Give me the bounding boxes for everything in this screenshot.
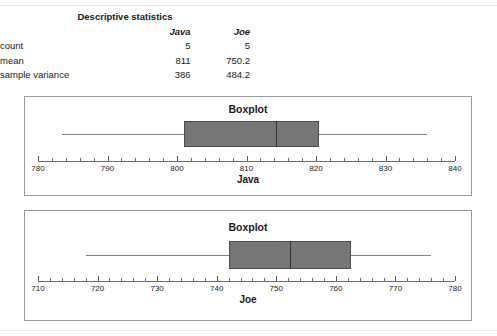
axis-tick-minor <box>94 158 95 161</box>
axis-tick-minor <box>133 278 134 281</box>
x-axis <box>38 281 455 282</box>
axis-tick-label: 820 <box>298 164 334 174</box>
axis-tick-label: 800 <box>159 164 195 174</box>
table-title-row: Descriptive statistics <box>0 10 250 25</box>
table-row: mean 811 750.2 <box>0 54 250 69</box>
axis-tick-minor <box>109 278 110 281</box>
row-label-sample-variance: sample variance <box>0 68 136 83</box>
x-axis <box>38 161 455 162</box>
axis-tick-minor <box>74 278 75 281</box>
bottom-divider <box>0 330 497 331</box>
top-divider <box>0 5 497 6</box>
axis-tick-major <box>247 156 248 161</box>
axis-tick-minor <box>241 278 242 281</box>
axis-tick-minor <box>80 158 81 161</box>
axis-tick-minor <box>300 278 301 281</box>
axis-title-joe: Joe <box>25 294 471 305</box>
axis-tick-minor <box>441 158 442 161</box>
cell-mean-joe: 750.2 <box>191 54 250 69</box>
axis-tick-minor <box>121 158 122 161</box>
boxplot-panel-java: Boxplot 780790800810820830840 Java <box>24 96 472 196</box>
axis-tick-label: 730 <box>139 284 175 294</box>
axis-tick-minor <box>360 278 361 281</box>
axis-tick-major <box>336 276 337 281</box>
axis-tick-minor <box>135 158 136 161</box>
cell-sample-variance-java: 386 <box>136 68 191 83</box>
axis-tick-label: 780 <box>437 284 473 294</box>
axis-tick-minor <box>86 278 87 281</box>
axis-tick-minor <box>288 158 289 161</box>
table-header-row: Java Joe <box>0 25 250 40</box>
axis-tick-minor <box>191 158 192 161</box>
cell-sample-variance-joe: 484.2 <box>191 68 250 83</box>
axis-tick-minor <box>264 278 265 281</box>
axis-tick-minor <box>372 278 373 281</box>
axis-tick-minor <box>358 158 359 161</box>
box-iqr <box>184 121 320 147</box>
cell-count-java: 5 <box>136 39 191 54</box>
axis-tick-minor <box>407 278 408 281</box>
axis-tick-minor <box>219 158 220 161</box>
axis-tick-label: 720 <box>80 284 116 294</box>
axis-tick-minor <box>52 158 53 161</box>
axis-tick-minor <box>274 158 275 161</box>
axis-tick-major <box>276 276 277 281</box>
axis-tick-label: 750 <box>258 284 294 294</box>
axis-tick-minor <box>66 158 67 161</box>
axis-tick-major <box>386 156 387 161</box>
axis-tick-label: 770 <box>377 284 413 294</box>
axis-tick-major <box>157 276 158 281</box>
axis-tick-major <box>38 156 39 161</box>
column-header-java: Java <box>136 25 191 40</box>
axis-title-java: Java <box>25 174 471 185</box>
cell-mean-java: 811 <box>136 54 191 69</box>
axis-tick-minor <box>260 158 261 161</box>
axis-tick-major <box>38 276 39 281</box>
boxplot-panel-joe: Boxplot 710720730740750760770780 Joe <box>24 210 472 321</box>
axis-tick-minor <box>312 278 313 281</box>
axis-tick-minor <box>348 278 349 281</box>
axis-tick-label: 790 <box>90 164 126 174</box>
axis-tick-minor <box>302 158 303 161</box>
axis-tick-minor <box>330 158 331 161</box>
axis-tick-major <box>217 276 218 281</box>
axis-tick-major <box>455 276 456 281</box>
axis-tick-minor <box>149 158 150 161</box>
axis-tick-minor <box>121 278 122 281</box>
row-label-count: count <box>0 39 136 54</box>
axis-tick-label: 830 <box>368 164 404 174</box>
axis-tick-label: 710 <box>20 284 56 294</box>
table-row: sample variance 386 484.2 <box>0 68 250 83</box>
axis-tick-minor <box>384 278 385 281</box>
axis-tick-major <box>108 156 109 161</box>
median-line <box>276 121 277 147</box>
axis-tick-minor <box>431 278 432 281</box>
axis-tick-major <box>98 276 99 281</box>
axis-tick-minor <box>344 158 345 161</box>
axis-tick-minor <box>193 278 194 281</box>
axis-tick-minor <box>163 158 164 161</box>
axis-tick-minor <box>233 158 234 161</box>
axis-tick-minor <box>419 278 420 281</box>
axis-tick-minor <box>181 278 182 281</box>
axis-tick-minor <box>324 278 325 281</box>
axis-tick-minor <box>62 278 63 281</box>
axis-tick-minor <box>205 158 206 161</box>
axis-tick-minor <box>443 278 444 281</box>
column-header-blank <box>0 25 136 40</box>
axis-tick-label: 760 <box>318 284 354 294</box>
axis-tick-minor <box>413 158 414 161</box>
cell-count-joe: 5 <box>191 39 250 54</box>
axis-tick-major <box>455 156 456 161</box>
axis-tick-major <box>395 276 396 281</box>
axis-tick-minor <box>145 278 146 281</box>
axis-tick-label: 840 <box>437 164 473 174</box>
axis-tick-minor <box>372 158 373 161</box>
stats-title: Descriptive statistics <box>0 10 250 25</box>
axis-tick-major <box>177 156 178 161</box>
descriptive-statistics-table: Descriptive statistics Java Joe count 5 … <box>0 10 250 83</box>
axis-tick-minor <box>229 278 230 281</box>
axis-tick-minor <box>427 158 428 161</box>
median-line <box>290 241 291 269</box>
axis-tick-minor <box>252 278 253 281</box>
